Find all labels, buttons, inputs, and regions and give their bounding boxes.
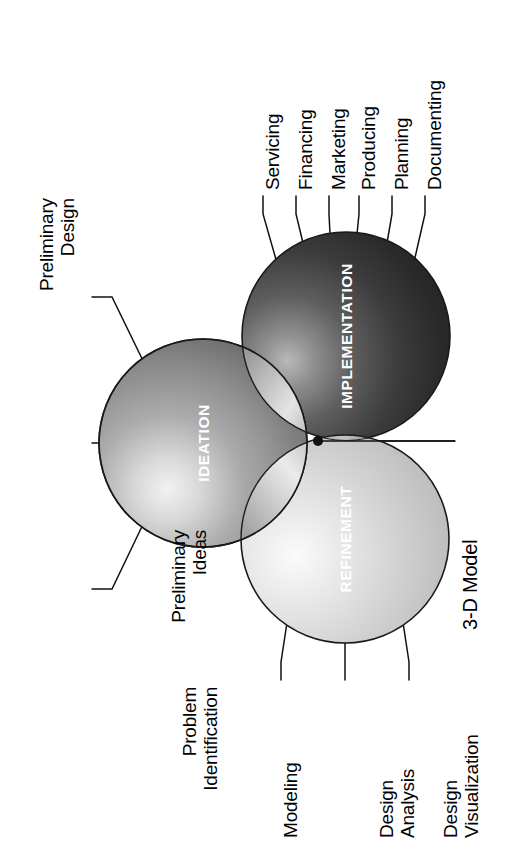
callout-marketing: Marketing [329, 108, 348, 190]
leader-marketing [329, 196, 330, 234]
callout-documenting: Documenting [425, 80, 444, 190]
callout-modeling: Modeling [281, 762, 300, 838]
callout-line: Design [376, 769, 397, 838]
design-process-diagram: IDEATION IMPLEMENTATION REFINEMENT Servi… [0, 0, 507, 866]
callout-planning: Planning [392, 118, 411, 190]
leader-servicing [263, 196, 277, 263]
leader-planning [387, 196, 392, 243]
callout-3d-model: 3-D Model [460, 540, 480, 630]
callout-problem-identification: ProblemIdentification [140, 687, 260, 791]
callout-line: Problem [179, 687, 200, 791]
callout-preliminary-ideas: PreliminaryIdeas [129, 530, 249, 623]
callout-line: Ideas [189, 530, 210, 623]
leader-producing [357, 196, 359, 234]
callout-line: Preliminary [168, 530, 189, 623]
callout-financing: Financing [296, 109, 315, 190]
callout-line: Visualization [461, 734, 482, 838]
sphere-label-implementation: IMPLEMENTATION [338, 263, 355, 409]
leader-financing [296, 196, 303, 243]
callout-design-visualization: DesignVisualization [401, 734, 507, 838]
triple-intersection-dot-top [313, 436, 323, 446]
callout-line: Design [440, 734, 461, 838]
leader-documenting [414, 196, 425, 262]
sphere-label-refinement: REFINEMENT [337, 486, 354, 593]
callout-servicing: Servicing [263, 114, 282, 190]
callout-line: Identification [200, 687, 221, 791]
callout-line: Preliminary [36, 198, 57, 291]
callout-producing: Producing [359, 106, 378, 190]
sphere-label-ideation: IDEATION [195, 404, 212, 482]
callout-line: Design [57, 198, 78, 291]
